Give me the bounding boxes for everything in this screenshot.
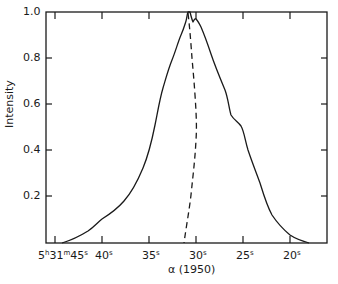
y-tick-label-1-0: 1.0 (23, 6, 41, 18)
x-axis-label: α (1950) (168, 263, 215, 276)
x-tick-label-25s: 25s (236, 247, 254, 262)
reference-curve-dashed (184, 13, 196, 243)
y-tick-label-0-4: 0.4 (23, 144, 41, 156)
y-tick-label-0-8: 0.8 (23, 52, 41, 64)
x-tick-label-5h31m45s: 5h31m45s (38, 247, 88, 262)
x-tick-label-35s: 35s (142, 247, 160, 262)
y-tick-label-0-2: 0.2 (23, 190, 41, 202)
x-ticks-top (55, 12, 290, 19)
x-tick-label-40s: 40s (95, 247, 113, 262)
profile-curve-solid (62, 12, 309, 243)
chart-canvas (0, 0, 338, 284)
y-ticks-left (46, 58, 52, 196)
x-ticks-bottom (55, 236, 290, 243)
x-tick-label-30s: 30s (189, 247, 207, 262)
y-ticks-right (321, 58, 327, 196)
x-tick-label-20s: 20s (283, 247, 301, 262)
y-axis-label: Intensity (3, 80, 16, 128)
y-tick-label-0-6: 0.6 (23, 98, 41, 110)
plot-frame (46, 12, 327, 243)
